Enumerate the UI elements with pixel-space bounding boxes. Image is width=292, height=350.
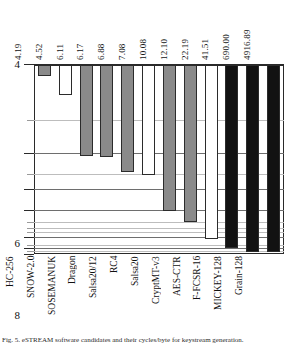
bar-rc4 bbox=[142, 65, 155, 175]
bar-cryptmt-v3 bbox=[184, 65, 197, 222]
bar-snow-2.0 bbox=[59, 65, 72, 95]
y-tick bbox=[27, 228, 34, 229]
value-label-row: 4.194.526.116.176.887.0810.0812.1022.194… bbox=[0, 0, 292, 62]
figure-caption: Fig. 5. eSTREAM software candidates and … bbox=[2, 336, 290, 344]
y-tick: 4 bbox=[24, 64, 34, 65]
y-tick: 10 bbox=[24, 210, 34, 211]
category-label-row: HC-256SNOW-2.0SOSEMANUKDragonSalsa20/12R… bbox=[34, 256, 284, 334]
y-tick bbox=[27, 232, 34, 233]
axis-bottom-line bbox=[34, 253, 284, 254]
bar-hc-256 bbox=[38, 65, 51, 76]
axis-left-line bbox=[34, 64, 35, 254]
y-tick: 20 bbox=[24, 237, 34, 238]
bar-mickey-128 bbox=[246, 65, 259, 252]
bar-salsa20 bbox=[163, 65, 176, 211]
bar-grain-128 bbox=[267, 65, 280, 252]
y-tick bbox=[27, 245, 34, 246]
bar-sosemanuk bbox=[80, 65, 93, 156]
y-tick bbox=[27, 120, 34, 121]
bar-salsa20/12 bbox=[121, 65, 134, 172]
y-tick: ∞ bbox=[24, 254, 34, 255]
y-axis-label: 6 bbox=[15, 238, 21, 249]
bar-f-fcsr-16 bbox=[225, 65, 238, 248]
axis-right-line bbox=[283, 64, 284, 254]
value-label: 4916.89 bbox=[243, 2, 292, 60]
y-tick bbox=[27, 174, 34, 175]
y-tick bbox=[27, 251, 34, 252]
chart-figure: 4.194.526.116.176.887.0810.0812.1022.194… bbox=[0, 0, 292, 350]
y-tick: 6 bbox=[24, 153, 34, 154]
y-tick bbox=[27, 222, 34, 223]
y-tick: 40 bbox=[24, 248, 34, 249]
y-tick: 8 bbox=[24, 189, 34, 190]
bar-aes-ctr bbox=[205, 65, 218, 239]
plot-area: 468102040∞ bbox=[34, 64, 284, 254]
category-label: Grain-128 bbox=[235, 256, 292, 330]
y-axis-label: 4 bbox=[15, 59, 21, 70]
bar-dragon bbox=[100, 65, 113, 157]
